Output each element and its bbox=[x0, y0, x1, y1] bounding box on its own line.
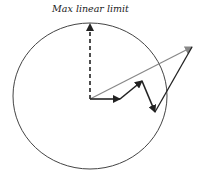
step-arrow-3 bbox=[142, 81, 155, 112]
step-arrow-2 bbox=[120, 81, 142, 99]
diagram-canvas bbox=[0, 0, 202, 177]
